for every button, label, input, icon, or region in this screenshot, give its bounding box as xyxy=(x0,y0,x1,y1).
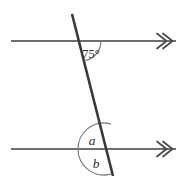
angle-label-a: a xyxy=(89,133,96,148)
angle-label-b: b xyxy=(93,156,100,171)
geometry-figure: 75° a b xyxy=(0,0,189,187)
geometry-diagram-canvas: 75° a b xyxy=(0,0,189,187)
angle-label-75: 75° xyxy=(82,47,100,61)
